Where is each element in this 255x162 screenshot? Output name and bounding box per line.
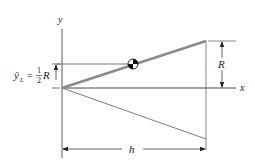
centroid-label-eq: = bbox=[27, 70, 33, 81]
centroid-label: ȳ L = 1 2 R bbox=[13, 66, 50, 85]
y-axis-label: y bbox=[57, 14, 63, 25]
centroid-label-y: ȳ bbox=[13, 69, 20, 81]
lower-edge-line bbox=[62, 88, 206, 139]
centroid-icon bbox=[128, 59, 138, 69]
centroid-label-r: R bbox=[42, 69, 50, 81]
length-label: h bbox=[129, 143, 135, 155]
centroid-label-sub: L bbox=[19, 76, 24, 84]
radius-label: R bbox=[217, 58, 225, 70]
x-axis-label: x bbox=[239, 82, 245, 93]
centroid-label-den: 2 bbox=[37, 76, 41, 85]
cone-diagram: y x R ȳ L = 1 2 R h bbox=[0, 0, 255, 162]
centroid-label-num: 1 bbox=[37, 66, 41, 75]
